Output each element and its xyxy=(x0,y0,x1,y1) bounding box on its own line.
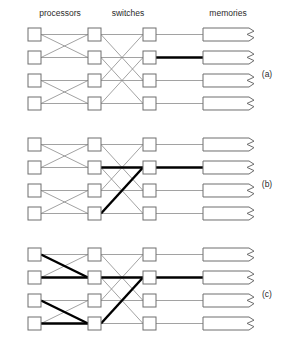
switch-node-stage1 xyxy=(88,51,101,64)
panel-label-b: (b) xyxy=(262,179,273,189)
switch-node-stage2 xyxy=(143,248,156,261)
switch-node-stage1 xyxy=(88,138,101,151)
switch-node-stage2 xyxy=(143,97,156,110)
memory-node xyxy=(203,51,254,64)
panel-a-stage1-links xyxy=(41,35,88,104)
switch-node-stage2 xyxy=(143,271,156,284)
switch-node-stage2 xyxy=(143,161,156,174)
switch-node-stage1 xyxy=(88,294,101,307)
column-header-switches: switches xyxy=(112,8,145,18)
panel-c-stage2-links xyxy=(101,255,143,324)
switch-node-stage1 xyxy=(88,248,101,261)
panel-b-stage2-links xyxy=(101,145,143,214)
memory-node xyxy=(203,294,254,307)
memory-node xyxy=(203,248,254,261)
memory-node xyxy=(203,138,254,151)
processor-node xyxy=(28,294,41,307)
switch-node-stage2 xyxy=(143,74,156,87)
switch-node-stage2 xyxy=(143,28,156,41)
memory-node xyxy=(203,184,254,197)
memory-node xyxy=(203,271,254,284)
processor-node xyxy=(28,97,41,110)
memory-node xyxy=(203,161,254,174)
panel-a-stage3-links xyxy=(155,35,203,104)
switch-node-stage1 xyxy=(88,317,101,330)
switch-node-stage1 xyxy=(88,184,101,197)
memory-node xyxy=(203,97,254,110)
panel-c-stage3-links xyxy=(155,255,203,324)
processor-node xyxy=(28,248,41,261)
switch-node-stage1 xyxy=(88,161,101,174)
panel-label-c: (c) xyxy=(262,289,272,299)
panel-b-stage3-links xyxy=(155,145,203,214)
switch-node-stage2 xyxy=(143,317,156,330)
processor-node xyxy=(28,161,41,174)
memory-node xyxy=(203,317,254,330)
interconnection-network-figure: processors switches memories xyxy=(0,0,292,351)
memory-node xyxy=(203,207,254,220)
processor-node xyxy=(28,271,41,284)
switch-node-stage2 xyxy=(143,294,156,307)
panel-c: (c) xyxy=(28,248,272,330)
switch-node-stage1 xyxy=(88,271,101,284)
processor-node xyxy=(28,51,41,64)
panel-a: (a) xyxy=(28,28,272,110)
switch-node-stage1 xyxy=(88,28,101,41)
panel-label-a: (a) xyxy=(262,69,273,79)
switch-node-stage1 xyxy=(88,97,101,110)
column-header-processors: processors xyxy=(39,8,81,18)
memory-node xyxy=(203,74,254,87)
panel-b: (b) xyxy=(28,138,272,220)
panel-c-stage1-links xyxy=(41,255,88,324)
processor-node xyxy=(28,207,41,220)
column-header-memories: memories xyxy=(209,8,246,18)
switch-node-stage2 xyxy=(143,138,156,151)
processor-node xyxy=(28,28,41,41)
switch-node-stage1 xyxy=(88,74,101,87)
processor-node xyxy=(28,184,41,197)
processor-node xyxy=(28,138,41,151)
memory-node xyxy=(203,28,254,41)
processor-node xyxy=(28,317,41,330)
panel-b-stage1-links xyxy=(41,145,88,214)
switch-node-stage1 xyxy=(88,207,101,220)
switch-node-stage2 xyxy=(143,51,156,64)
panel-a-stage2-links xyxy=(101,35,143,104)
processor-node xyxy=(28,74,41,87)
switch-node-stage2 xyxy=(143,184,156,197)
switch-node-stage2 xyxy=(143,207,156,220)
